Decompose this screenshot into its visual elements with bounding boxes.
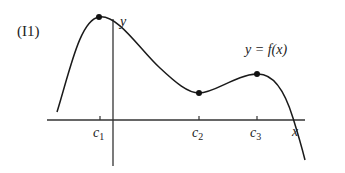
- tick-label-c2-sub: 2: [198, 131, 203, 142]
- tick-label-c1-sub: 1: [99, 131, 104, 142]
- tick-label-c3: c3: [250, 125, 261, 142]
- tick-label-c3-sub: 3: [256, 131, 261, 142]
- x-axis-label: x: [291, 124, 299, 139]
- figure-label: (I1): [17, 23, 40, 40]
- point-c1-maximum: [96, 14, 102, 20]
- point-c2-minimum: [196, 90, 202, 96]
- tick-label-c2: c2: [192, 125, 203, 142]
- point-c3-maximum: [254, 71, 260, 77]
- tick-label-c1: c1: [93, 125, 104, 142]
- function-graph: (I1) y y = f(x) x c1 c2 c3: [0, 0, 345, 173]
- y-axis-label: y: [118, 14, 127, 29]
- function-label: y = f(x): [243, 42, 287, 58]
